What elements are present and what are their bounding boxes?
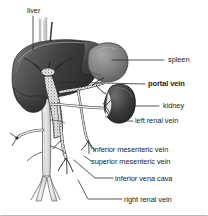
label-portal-vein: portal vein [148, 79, 185, 88]
label-inferior-vena-cava: inferior vena cava [115, 174, 173, 183]
label-superior-mesenteric-vein: superior mesenteric vein [91, 157, 170, 166]
label-right-renal-vein: right renal vein [124, 195, 172, 204]
anatomy-illustration: liverspleenportal veinkidneyleft renal v… [0, 0, 208, 216]
label-left-renal-vein: left renal vein [135, 116, 178, 125]
label-spleen: spleen [168, 55, 189, 64]
anatomy-figure: liverspleenportal veinkidneyleft renal v… [0, 0, 208, 216]
spleen-organ [88, 43, 128, 82]
kidney-organ [104, 84, 135, 123]
label-kidney: kidney [163, 101, 184, 110]
label-inferior-mesenteric-vein: inferior mesenteric vein [93, 145, 168, 154]
label-liver: liver [27, 6, 41, 15]
